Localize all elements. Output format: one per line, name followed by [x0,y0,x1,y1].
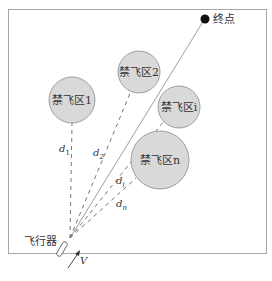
zone-2: 禁飞区2 [118,51,160,93]
destination-point-icon [201,15,210,24]
zone-n: 禁飞区n [131,131,189,189]
zone-i: 禁飞区i [158,86,200,128]
zone-i-label: 禁飞区i [161,101,198,114]
zone-n-label: 禁飞区n [140,154,180,167]
aircraft-label: 飞行器 [24,235,57,248]
zone-1: 禁飞区1 [49,77,95,123]
destination-label: 终点 [213,12,235,26]
no-fly-zone-diagram: 禁飞区1 禁飞区2 禁飞区i 禁飞区n d1 d2 di dn 终点 飞行器 V [0,0,272,281]
zone-2-label: 禁飞区2 [119,66,159,79]
velocity-label: V [80,255,89,266]
zone-1-label: 禁飞区1 [52,94,92,107]
diagram-frame [9,10,267,254]
